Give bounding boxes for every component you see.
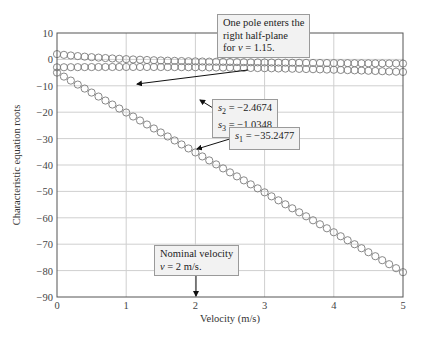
rhp-line-3: for v = 1.15. — [223, 42, 304, 55]
y-tick-label: −80 — [37, 266, 53, 277]
y-tick-label: 10 — [43, 28, 54, 39]
data-point — [372, 60, 379, 67]
data-point — [143, 63, 150, 70]
x-axis-label: Velocity (m/s) — [200, 313, 260, 325]
data-point — [358, 245, 365, 252]
y-tick-label: −70 — [37, 239, 53, 250]
data-point — [392, 60, 399, 67]
data-point — [337, 66, 344, 73]
rhp-line-1: One pole enters the — [223, 17, 304, 30]
y-tick-label: −40 — [37, 160, 53, 171]
rhp-line-2: right half-plane — [223, 30, 304, 43]
data-point — [150, 63, 157, 70]
data-point — [171, 137, 178, 144]
data-point — [379, 257, 386, 264]
y-tick-label: 0 — [48, 54, 53, 65]
data-point — [213, 161, 220, 168]
data-point — [150, 125, 157, 132]
data-point — [344, 60, 351, 67]
data-point — [206, 157, 213, 164]
data-point — [136, 63, 143, 70]
data-point — [102, 63, 109, 70]
data-point — [254, 185, 261, 192]
rhp-value: = 1.15. — [243, 42, 275, 53]
data-point — [219, 165, 226, 172]
nominal-line-2: v = 2 m/s. — [160, 261, 233, 274]
data-point — [226, 64, 233, 71]
y-axis-label: Characteristic equation roots — [11, 105, 22, 226]
data-point — [109, 101, 116, 108]
data-point — [150, 57, 157, 64]
data-point — [296, 209, 303, 216]
data-point — [102, 97, 109, 104]
x-tick-label: 0 — [54, 300, 59, 311]
data-point — [143, 56, 150, 63]
data-point — [275, 197, 282, 204]
data-point — [116, 63, 123, 70]
data-point — [74, 81, 81, 88]
data-point — [372, 253, 379, 260]
data-point — [109, 55, 116, 62]
x-tick-label: 1 — [124, 300, 129, 311]
data-point — [136, 117, 143, 124]
data-point — [81, 64, 88, 71]
x-tick-label: 4 — [331, 300, 337, 311]
data-point — [303, 213, 310, 220]
y-tick-label: −90 — [37, 292, 53, 303]
data-point — [95, 54, 102, 61]
data-point — [67, 52, 74, 59]
data-series — [53, 51, 406, 276]
data-point — [344, 67, 351, 74]
y-tick-label: −50 — [37, 186, 53, 197]
data-point — [365, 60, 372, 67]
data-point — [337, 233, 344, 240]
data-point — [109, 63, 116, 70]
data-point — [247, 181, 254, 188]
data-point — [60, 64, 67, 71]
data-point — [95, 93, 102, 100]
x-tick-label: 2 — [193, 300, 198, 311]
data-point — [157, 57, 164, 64]
nominal-value: = 2 m/s. — [165, 261, 202, 272]
y-tick-label: −10 — [37, 81, 53, 92]
data-point — [88, 89, 95, 96]
root-locus-chart: 012345100−10−20−30−40−50−60−70−80−90 Vel… — [0, 0, 422, 337]
data-point — [379, 68, 386, 75]
data-point — [226, 169, 233, 176]
data-point — [351, 67, 358, 74]
data-point — [116, 55, 123, 62]
rhp-arrow — [137, 70, 248, 84]
s2-value: = −2.4674 — [226, 102, 272, 113]
data-point — [365, 67, 372, 74]
data-point — [178, 141, 185, 148]
data-point — [88, 63, 95, 70]
data-point — [316, 221, 323, 228]
y-tick-label: −20 — [37, 107, 53, 118]
rhp-annotation: One pole enters the right half-plane for… — [217, 14, 310, 58]
data-point — [386, 60, 393, 67]
data-point — [351, 60, 358, 67]
nominal-velocity-annotation: Nominal velocity v = 2 m/s. — [154, 245, 239, 276]
data-point — [379, 60, 386, 67]
data-point — [199, 153, 206, 160]
data-point — [247, 64, 254, 71]
data-point — [268, 193, 275, 200]
data-point — [67, 77, 74, 84]
data-point — [185, 145, 192, 152]
data-point — [337, 60, 344, 67]
data-point — [358, 67, 365, 74]
y-tick-label: −60 — [37, 213, 53, 224]
data-point — [233, 64, 240, 71]
data-point — [60, 51, 67, 58]
s1-value: = −35.2477 — [243, 130, 294, 141]
data-point — [386, 68, 393, 75]
s1-annotation: s1 = −35.2477 — [229, 127, 300, 150]
data-point — [344, 237, 351, 244]
nominal-line-1: Nominal velocity — [160, 248, 233, 261]
data-point — [60, 73, 67, 80]
data-point — [358, 60, 365, 67]
x-tick-label: 5 — [400, 300, 405, 311]
data-point — [67, 64, 74, 71]
x-tick-label: 3 — [262, 300, 267, 311]
data-point — [372, 67, 379, 74]
